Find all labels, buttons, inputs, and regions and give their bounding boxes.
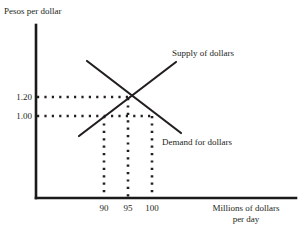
supply-demand-chart [0,0,303,237]
y-tick-label-100: 1.00 [8,111,32,121]
supply-curve-label: Supply of dollars [172,48,234,58]
supply-curve [79,62,176,136]
y-tick-label-120: 1.20 [8,92,32,102]
demand-curve-label: Demand for dollars [162,137,232,147]
x-tick-label-100: 100 [137,203,167,213]
y-axis-title: Pesos per dollar [4,6,62,16]
x-axis-title-line2: per day [198,214,294,224]
demand-curve [87,61,181,133]
x-axis-title-line1: Millions of dollars [198,203,294,213]
chart-figure: Pesos per dollar 1.20 1.00 90 95 100 Sup… [0,0,303,237]
